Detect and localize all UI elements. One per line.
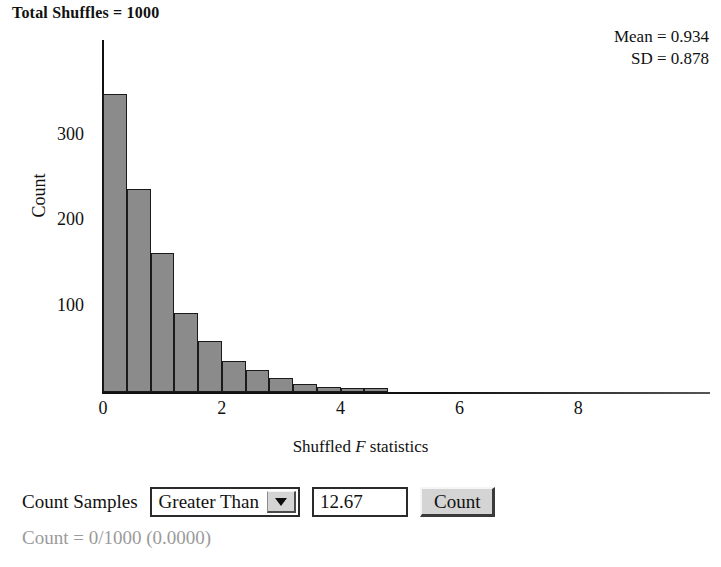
histogram-bar (293, 384, 317, 392)
histogram-bar (317, 387, 341, 392)
histogram-bar (174, 313, 198, 393)
x-axis-tick-label: 2 (202, 398, 242, 419)
x-axis-tick-label: 0 (83, 398, 123, 419)
comparison-selected-value: Greater Than (152, 489, 267, 515)
chevron-down-icon[interactable] (267, 491, 296, 513)
count-button[interactable]: Count (420, 487, 495, 517)
comparison-select[interactable]: Greater Than (150, 487, 300, 517)
histogram-bar (341, 388, 365, 392)
histogram-bar (151, 253, 175, 392)
applet-window: Total Shuffles = 1000 Mean = 0.934 SD = … (0, 0, 721, 567)
x-axis-tick-label: 8 (558, 398, 598, 419)
histogram-bars (0, 0, 721, 400)
histogram-bar (198, 341, 222, 392)
threshold-input[interactable]: 12.67 (312, 487, 408, 517)
count-controls: Count Samples Greater Than 12.67 Count (22, 487, 495, 517)
count-samples-label: Count Samples (22, 491, 138, 513)
histogram-bar (103, 94, 127, 392)
x-axis-title: Shuffled F statistics (0, 437, 721, 457)
histogram-bar (269, 378, 293, 392)
count-result-text: Count = 0/1000 (0.0000) (22, 527, 211, 549)
histogram-bar (246, 370, 270, 392)
x-axis-tick-label: 4 (321, 398, 361, 419)
triangle-glyph (275, 498, 287, 506)
histogram-bar (127, 189, 151, 392)
histogram-plot: Count 100200300 02468 Shuffled F statist… (0, 0, 721, 470)
histogram-bar (222, 361, 246, 392)
histogram-bar (364, 388, 388, 392)
x-axis-tick-label: 6 (439, 398, 479, 419)
